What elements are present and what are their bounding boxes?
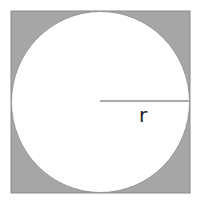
inscribed-circle-diagram: r <box>0 0 199 207</box>
inscribed-circle <box>12 12 190 193</box>
radius-label: r <box>139 103 148 127</box>
